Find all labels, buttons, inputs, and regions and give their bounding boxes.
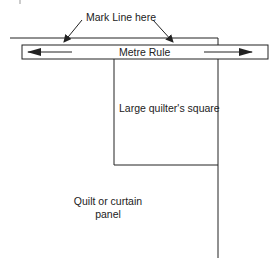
metre-rule-label: Metre Rule	[119, 46, 170, 58]
diagram-canvas	[0, 0, 277, 270]
panel-label-line2: panel	[54, 208, 162, 220]
mark-arrow-right-icon	[153, 20, 173, 42]
panel-label-line1: Quilt or curtain	[54, 195, 162, 207]
mark-line-label: Mark Line here	[86, 11, 156, 23]
top-mark-line	[10, 38, 218, 45]
square-label: Large quilter's square	[119, 102, 220, 114]
mark-arrow-left-icon	[64, 20, 82, 42]
